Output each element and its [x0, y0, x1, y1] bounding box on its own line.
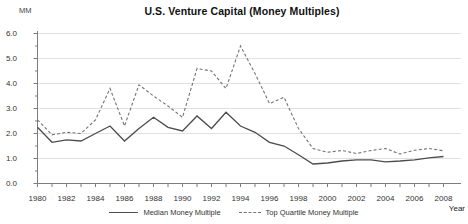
median-line-swatch	[109, 212, 138, 213]
top-quartile-line-swatch	[239, 212, 261, 213]
x-axis-title: Year	[449, 204, 465, 213]
svg-text:1996: 1996	[261, 194, 279, 203]
svg-text:5.0: 5.0	[6, 54, 18, 63]
svg-text:2.0: 2.0	[6, 129, 18, 138]
svg-text:1980: 1980	[29, 194, 47, 203]
svg-text:2002: 2002	[348, 194, 366, 203]
svg-text:1992: 1992	[203, 194, 221, 203]
svg-text:1982: 1982	[58, 194, 76, 203]
svg-text:1998: 1998	[290, 194, 308, 203]
svg-text:4.0: 4.0	[6, 79, 18, 88]
legend-item-median: Median Money Multiple	[109, 208, 220, 217]
legend-item-top-quartile: Top Quartile Money Multiple	[239, 208, 359, 217]
line-chart-plot: 0.01.02.03.04.05.06.01980198219841986198…	[0, 0, 468, 224]
svg-text:0.0: 0.0	[6, 179, 18, 188]
svg-text:2004: 2004	[377, 194, 395, 203]
legend-label-median: Median Money Multiple	[143, 208, 220, 217]
svg-text:3.0: 3.0	[6, 104, 18, 113]
svg-text:6.0: 6.0	[6, 29, 18, 38]
svg-text:1984: 1984	[87, 194, 105, 203]
chart-container: MM U.S. Venture Capital (Money Multiples…	[0, 0, 468, 224]
svg-text:2006: 2006	[406, 194, 424, 203]
svg-text:1988: 1988	[145, 194, 163, 203]
svg-text:1994: 1994	[232, 194, 250, 203]
svg-text:2008: 2008	[435, 194, 453, 203]
legend-label-top-quartile: Top Quartile Money Multiple	[266, 208, 359, 217]
chart-legend: Median Money Multiple Top Quartile Money…	[0, 205, 468, 219]
svg-text:2000: 2000	[319, 194, 337, 203]
svg-text:1.0: 1.0	[6, 154, 18, 163]
svg-text:1986: 1986	[116, 194, 134, 203]
svg-text:1990: 1990	[174, 194, 192, 203]
